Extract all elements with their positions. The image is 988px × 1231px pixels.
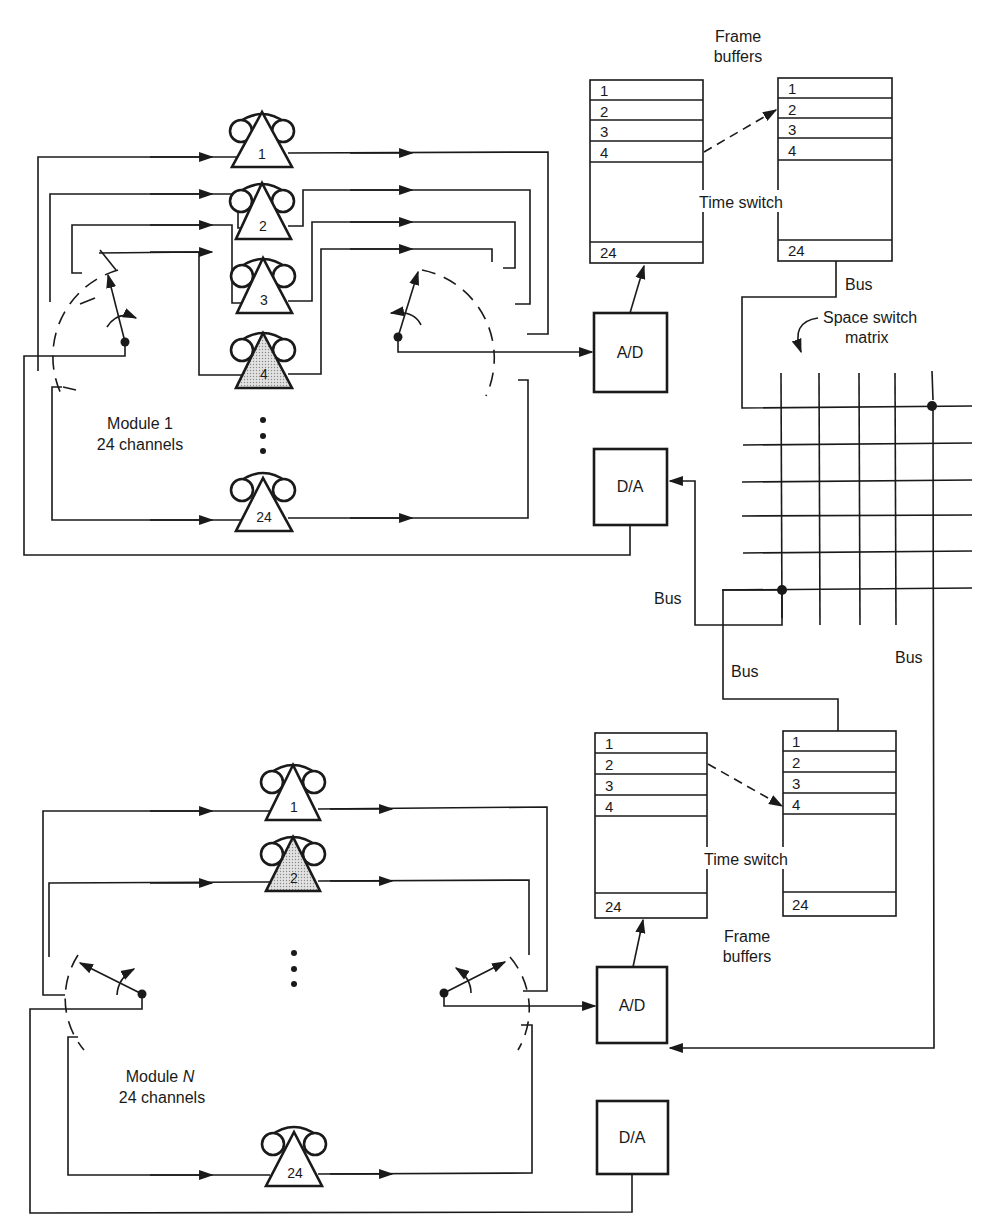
module-1-channels: 24 channels [97, 436, 183, 453]
svg-text:4: 4 [260, 366, 268, 382]
svg-text:2: 2 [788, 101, 796, 118]
module-1-da-converter: D/A [594, 449, 667, 525]
right-selector-arm [398, 272, 418, 337]
svg-text:4: 4 [605, 798, 613, 815]
channel-1-out-wire [288, 152, 548, 334]
ad-to-buffer-arrow [630, 266, 644, 313]
switching-diagram: 1 2 3 4 24 Module 1 24 channels [0, 0, 988, 1231]
module-n-phone-channel-24: 24 [262, 1127, 326, 1186]
channel-24-out-wire [288, 380, 528, 518]
channel-n2-out-wire [318, 880, 529, 955]
bottom-bus-wire [723, 590, 838, 732]
module-1-ad-wire [398, 337, 592, 352]
svg-text:1: 1 [788, 80, 796, 97]
svg-text:2: 2 [605, 756, 613, 773]
top-bus-label: Bus [845, 276, 873, 293]
svg-text:A/D: A/D [617, 344, 644, 361]
space-switch-label-2: matrix [845, 329, 889, 346]
svg-text:D/A: D/A [619, 1129, 646, 1146]
svg-text:24: 24 [256, 509, 272, 525]
phone-channel-2: 2 [230, 183, 294, 239]
svg-text:3: 3 [600, 123, 608, 140]
space-switch-label-1: Space switch [823, 309, 917, 326]
svg-text:2: 2 [792, 754, 800, 771]
svg-text:3: 3 [605, 777, 613, 794]
channel-n1-out-wire [318, 807, 547, 991]
top-time-switch-arrow [704, 110, 776, 152]
module-n-ad-converter: A/D [597, 967, 667, 1043]
svg-text:1: 1 [258, 146, 266, 162]
phone-channel-3: 3 [231, 258, 295, 313]
channel-4-out-wire [288, 249, 492, 374]
svg-text:4: 4 [792, 796, 800, 813]
channel-3-out-wire [288, 222, 515, 301]
svg-text:1: 1 [290, 799, 298, 815]
top-frame-buffers-label-1: Frame [715, 28, 761, 45]
bottom-time-switch-arrow [708, 764, 782, 806]
channel-24-in-wire [52, 387, 258, 520]
top-frame-buffers-label-2: buffers [714, 48, 763, 65]
channel-2-out-wire [288, 190, 530, 304]
module-n-ellipsis-dots [291, 950, 297, 987]
phone-channel-24: 24 [231, 473, 295, 531]
bottom-time-switch-label: Time switch [704, 851, 788, 868]
bottom-frame-buffers-label-2: buffers [723, 948, 772, 965]
right-selector-arc [422, 270, 494, 396]
svg-text:1: 1 [605, 735, 613, 752]
bottom-bus-label: Bus [731, 663, 759, 680]
module-n-name: Module N [126, 1068, 195, 1085]
svg-text:24: 24 [605, 898, 622, 915]
svg-text:3: 3 [260, 292, 268, 308]
top-input-frame-buffer: 1 2 3 4 24 [590, 80, 703, 263]
left-selector-arc [53, 270, 118, 396]
svg-text:24: 24 [287, 1165, 303, 1181]
crosspoint-top [927, 401, 937, 411]
bus-label-da1: Bus [654, 590, 682, 607]
channel-n24-out-wire [318, 1025, 532, 1174]
module-1-ad-converter: A/D [594, 313, 667, 392]
svg-text:24: 24 [792, 896, 809, 913]
channel-1-in-wire [38, 157, 252, 371]
module-n-channels: 24 channels [119, 1089, 205, 1106]
module-n-phone-channel-2-highlighted: 2 [261, 837, 325, 891]
module-n-left-selector-arc [65, 955, 84, 1050]
module-n-ad-wire [444, 993, 595, 1006]
phone-channel-4-highlighted: 4 [231, 333, 295, 388]
bottom-input-frame-buffer: 1 2 3 4 24 [595, 733, 707, 918]
phone-channel-1: 1 [230, 112, 294, 167]
top-time-switch-label: Time switch [699, 194, 783, 211]
svg-text:1: 1 [600, 82, 608, 99]
space-switch-pointer-arrow [798, 318, 818, 352]
bus-to-module-n-da [670, 406, 934, 1048]
svg-text:3: 3 [792, 775, 800, 792]
module-1: 1 2 3 4 24 Module 1 24 channels [24, 112, 630, 555]
bottom-frame-buffers-label-1: Frame [724, 928, 770, 945]
svg-text:24: 24 [600, 244, 617, 261]
channel-n2-in-wire [49, 882, 270, 957]
svg-text:D/A: D/A [617, 478, 644, 495]
bottom-output-frame-buffer: 1 2 3 4 24 [783, 731, 896, 916]
svg-text:2: 2 [259, 218, 267, 234]
module-n: 1 2 24 Module N 24 channels [30, 765, 632, 1213]
module-n-right-arm [444, 962, 505, 993]
top-output-frame-buffer: 1 2 3 4 24 [778, 78, 892, 261]
module-n-da-converter: D/A [597, 1101, 668, 1174]
svg-text:4: 4 [600, 144, 608, 161]
ellipsis-dots [260, 417, 266, 454]
module-n-phone-channel-1: 1 [261, 765, 325, 820]
left-selector-arm [108, 275, 125, 342]
channel-2-in-wire [50, 194, 255, 302]
svg-text:2: 2 [290, 870, 298, 886]
ad-n-to-buffer-arrow [633, 920, 643, 967]
svg-text:4: 4 [788, 142, 796, 159]
svg-text:A/D: A/D [619, 997, 646, 1014]
channel-n1-in-wire [43, 811, 270, 995]
channel-n24-in-wire [68, 1037, 270, 1175]
svg-text:2: 2 [600, 103, 608, 120]
module-n-right-selector-arc [510, 957, 529, 1050]
svg-text:24: 24 [788, 242, 805, 259]
svg-text:3: 3 [788, 121, 796, 138]
channel-3-in-wire [72, 225, 255, 303]
module-1-name: Module 1 [107, 415, 173, 432]
right-bus-label: Bus [895, 649, 923, 666]
